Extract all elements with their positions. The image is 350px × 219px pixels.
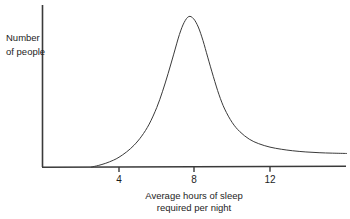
y-axis-title-line2: of people [6,46,45,57]
sleep-distribution-chart: 4 8 12 Number of people Average hours of… [0,0,350,219]
x-tick-label-8: 8 [191,174,197,185]
chart-background [0,0,350,219]
chart-canvas: 4 8 12 Number of people Average hours of… [0,0,350,219]
x-tick-label-12: 12 [264,174,276,185]
y-axis-title-line1: Number [6,32,40,43]
x-tick-label-4: 4 [116,174,122,185]
x-axis-title-line1: Average hours of sleep [145,190,243,201]
x-axis-title-line2: required per night [157,202,232,213]
